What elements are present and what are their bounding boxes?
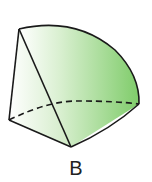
figure-label: B [0,158,152,178]
wedge-solid-diagram [0,0,152,182]
